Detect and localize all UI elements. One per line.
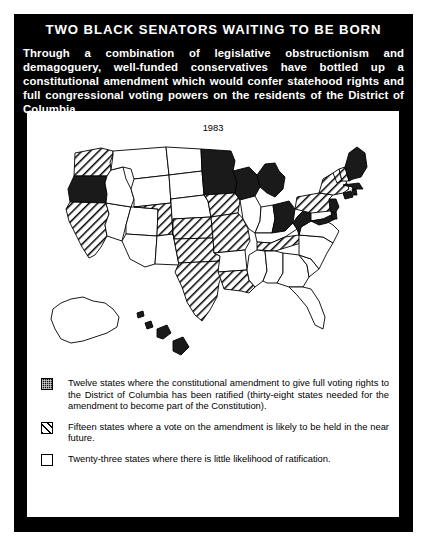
state-ca bbox=[66, 202, 109, 258]
map-panel: 1983 Twelve states where the const bbox=[27, 111, 399, 517]
us-map bbox=[27, 137, 399, 369]
state-tx bbox=[175, 261, 224, 321]
solid-black-swatch-icon bbox=[41, 378, 53, 390]
state-nj bbox=[329, 199, 339, 213]
state-ar bbox=[214, 250, 247, 272]
state-nd bbox=[166, 147, 202, 175]
state-wy bbox=[131, 175, 171, 207]
state-wa bbox=[74, 148, 113, 176]
intro-paragraph: Through a combination of legislative obs… bbox=[23, 46, 404, 116]
state-ks bbox=[173, 217, 213, 239]
state-or bbox=[68, 176, 107, 203]
state-az bbox=[122, 234, 157, 267]
state-hi-island-3 bbox=[173, 337, 189, 355]
legend-item-unlikely: Twenty-three states where there is littl… bbox=[41, 453, 389, 470]
state-hi bbox=[145, 321, 153, 329]
state-ut bbox=[126, 207, 158, 236]
state-me bbox=[345, 147, 367, 181]
legend-item-ratified: Twelve states where the constitutional a… bbox=[41, 377, 389, 412]
state-ct bbox=[343, 191, 353, 199]
legend-item-pending-text: Fifteen states where a vote on the amend… bbox=[68, 421, 389, 444]
page-title: TWO BLACK SENATORS WAITING TO BE BORN bbox=[14, 22, 413, 37]
legend-item-unlikely-text: Twenty-three states where there is littl… bbox=[68, 453, 389, 465]
state-mn bbox=[201, 149, 237, 195]
legend-item-pending: Fifteen states where a vote on the amend… bbox=[41, 421, 389, 444]
state-hi-island-2 bbox=[157, 325, 171, 339]
state-pa bbox=[295, 193, 333, 213]
map-year-label: 1983 bbox=[27, 123, 399, 133]
map-legend: Twelve states where the constitutional a… bbox=[41, 377, 389, 479]
state-hi-island-1 bbox=[137, 311, 144, 318]
state-id bbox=[105, 167, 134, 207]
diagonal-hatch-swatch-icon bbox=[41, 422, 53, 434]
state-mi bbox=[257, 163, 285, 197]
state-wi bbox=[233, 167, 260, 200]
empty-white-swatch-icon bbox=[41, 454, 53, 466]
legend-item-ratified-text: Twelve states where the constitutional a… bbox=[68, 377, 389, 412]
state-fl bbox=[289, 287, 325, 329]
state-ri bbox=[352, 189, 357, 195]
state-ak bbox=[51, 297, 119, 343]
poster-frame: TWO BLACK SENATORS WAITING TO BE BORN Th… bbox=[14, 14, 413, 532]
